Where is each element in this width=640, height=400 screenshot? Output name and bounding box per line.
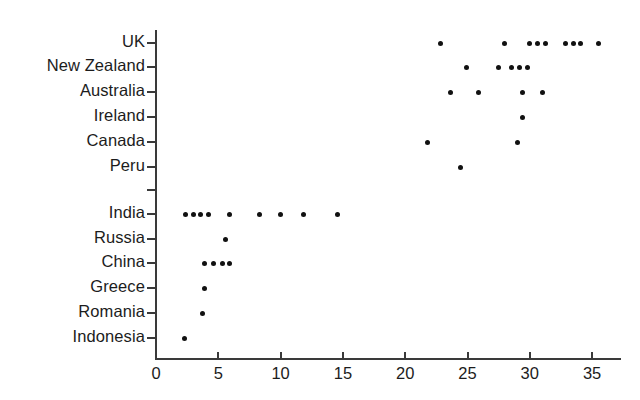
x-axis-tick [404, 352, 406, 360]
data-point [335, 212, 340, 217]
y-axis-label-text: Canada [4, 131, 145, 150]
data-point [540, 90, 545, 95]
y-axis-label-peru: Peru [0, 156, 145, 176]
data-point [202, 261, 207, 266]
data-point [223, 237, 228, 242]
data-point [191, 212, 196, 217]
data-point [535, 41, 540, 46]
y-axis-label-text: Russia [4, 228, 145, 247]
data-point [527, 41, 532, 46]
data-point [202, 286, 207, 291]
y-axis-label-text: New Zealand [4, 56, 145, 75]
data-point [227, 261, 232, 266]
data-point [257, 212, 262, 217]
y-axis-label-greece: Greece [0, 277, 145, 297]
y-axis-tick [147, 238, 155, 240]
x-axis-tick-label: 20 [382, 364, 428, 383]
y-axis-label-canada: Canada [0, 131, 145, 151]
y-axis-label-text: Romania [4, 302, 145, 321]
y-axis-label-russia: Russia [0, 228, 145, 248]
y-axis-label-ireland: Ireland [0, 106, 145, 126]
data-point [182, 336, 187, 341]
y-axis-label-new-zealand: New Zealand [0, 56, 145, 76]
y-axis-tick [147, 312, 155, 314]
y-axis-label-romania: Romania [0, 302, 145, 322]
data-point [458, 165, 463, 170]
data-point [515, 140, 520, 145]
data-point [278, 212, 283, 217]
data-point [563, 41, 568, 46]
y-axis-tick [147, 91, 155, 93]
y-axis-tick [147, 262, 155, 264]
y-axis-label-text: Ireland [4, 106, 145, 125]
y-axis-label-indonesia: Indonesia [0, 327, 145, 347]
x-axis-tick-label: 15 [320, 364, 366, 383]
y-axis-label-text: UK [4, 32, 145, 51]
data-point [517, 65, 522, 70]
x-axis-tick [342, 352, 344, 360]
data-point [476, 90, 481, 95]
x-axis-tick [467, 352, 469, 360]
x-axis-tick-label: 10 [258, 364, 304, 383]
y-axis-tick [147, 116, 155, 118]
x-axis-tick [155, 352, 157, 360]
scatter-chart: UKNew ZealandAustraliaIrelandCanadaPeruI… [0, 0, 640, 400]
x-axis-tick [529, 352, 531, 360]
data-point [206, 212, 211, 217]
data-point [496, 65, 501, 70]
x-axis-line [155, 358, 621, 360]
data-point [502, 41, 507, 46]
data-point [425, 140, 430, 145]
y-axis-label-china: China [0, 252, 145, 272]
y-axis-tick [147, 213, 155, 215]
data-point [220, 261, 225, 266]
y-axis-label-australia: Australia [0, 81, 145, 101]
y-axis-label-text: Australia [4, 81, 145, 100]
data-point [227, 212, 232, 217]
x-axis-tick-label: 35 [569, 364, 615, 383]
x-axis-tick-label: 0 [133, 364, 179, 383]
y-axis-label-text: China [4, 252, 145, 271]
data-point [596, 41, 601, 46]
y-axis-tick [147, 166, 155, 168]
data-point [571, 41, 576, 46]
y-axis-tick [147, 42, 155, 44]
y-axis-line [155, 30, 157, 360]
x-axis-tick [280, 352, 282, 360]
data-point [301, 212, 306, 217]
data-point [198, 212, 203, 217]
y-axis-tick [147, 287, 155, 289]
data-point [211, 261, 216, 266]
y-axis-tick [147, 141, 155, 143]
data-point [520, 115, 525, 120]
data-point [509, 65, 514, 70]
y-axis-tick [147, 66, 155, 68]
data-point [525, 65, 530, 70]
data-point [464, 65, 469, 70]
plot-area: UKNew ZealandAustraliaIrelandCanadaPeruI… [0, 0, 640, 400]
x-axis-tick-label: 25 [445, 364, 491, 383]
y-axis-tick [147, 337, 155, 339]
y-axis-label-text: Greece [4, 277, 145, 296]
data-point [183, 212, 188, 217]
x-axis-tick-label: 30 [507, 364, 553, 383]
data-point [448, 90, 453, 95]
x-axis-tick [591, 352, 593, 360]
x-axis-tick-label: 5 [195, 364, 241, 383]
data-point [520, 90, 525, 95]
data-point [543, 41, 548, 46]
y-axis-label-uk: UK [0, 32, 145, 52]
data-point [200, 311, 205, 316]
y-axis-label-text: India [4, 203, 145, 222]
y-axis-label-text: Indonesia [4, 327, 145, 346]
y-axis-label-india: India [0, 203, 145, 223]
x-axis-tick [217, 352, 219, 360]
y-axis-label-text: Peru [4, 156, 145, 175]
data-point [438, 41, 443, 46]
data-point [578, 41, 583, 46]
y-axis-tick [147, 189, 155, 191]
